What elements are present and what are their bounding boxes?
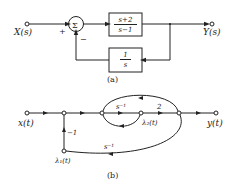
node-lambda2	[139, 111, 143, 115]
loop-inner-arc	[103, 115, 140, 126]
block-diagram-a: X(s) + Σ − s+2 s−1 Y(s) 1 s (a)	[13, 13, 221, 84]
arrowhead	[158, 111, 163, 115]
input-label: X(s)	[13, 27, 33, 37]
node-lambda1	[62, 149, 66, 153]
node-n1	[62, 111, 66, 115]
caption-b: (b)	[107, 171, 118, 180]
signal-flow-graph-b: x(t) s⁻¹ λ₂(t) 2 y(t) −1 λ₁(t) s⁻¹ (b)	[18, 95, 223, 180]
node-n3	[177, 111, 181, 115]
feedback-path-right	[143, 24, 170, 60]
arrowhead	[196, 111, 201, 115]
output-label: Y(s)	[203, 27, 221, 37]
node-x	[25, 111, 29, 115]
summer-plus: +	[59, 27, 66, 36]
output-label-b: y(t)	[206, 118, 223, 128]
arrowhead	[80, 111, 85, 115]
forward-numerator: s+2	[119, 16, 133, 24]
summer-minus: −	[80, 35, 87, 44]
caption-a: (a)	[107, 75, 118, 84]
diagram-canvas: X(s) + Σ − s+2 s−1 Y(s) 1 s (a) x(t)	[0, 0, 231, 193]
branch-s-inv-bottom	[66, 115, 181, 153]
summer-symbol: Σ	[72, 21, 78, 30]
arrowhead	[43, 111, 48, 115]
arrowhead	[119, 124, 124, 128]
gain-minus1: −1	[67, 129, 77, 137]
output-node	[210, 22, 214, 26]
arrowhead	[138, 96, 143, 100]
input-label-b: x(t)	[18, 118, 34, 128]
arrowhead	[108, 152, 113, 156]
arrowhead	[62, 127, 66, 132]
node-n2	[100, 111, 104, 115]
feedback-numerator: 1	[123, 51, 127, 59]
forward-denominator: s−1	[119, 26, 133, 34]
label-lambda2: λ₂(t)	[141, 119, 158, 127]
input-node	[25, 22, 29, 26]
label-lambda1: λ₁(t)	[54, 157, 71, 165]
node-y	[214, 111, 218, 115]
gain-s-inv-bottom: s⁻¹	[104, 143, 114, 151]
feedback-denominator: s	[124, 61, 128, 69]
arrowhead	[118, 111, 123, 115]
gain-s-inv-top: s⁻¹	[116, 103, 126, 111]
gain-2: 2	[156, 103, 162, 111]
